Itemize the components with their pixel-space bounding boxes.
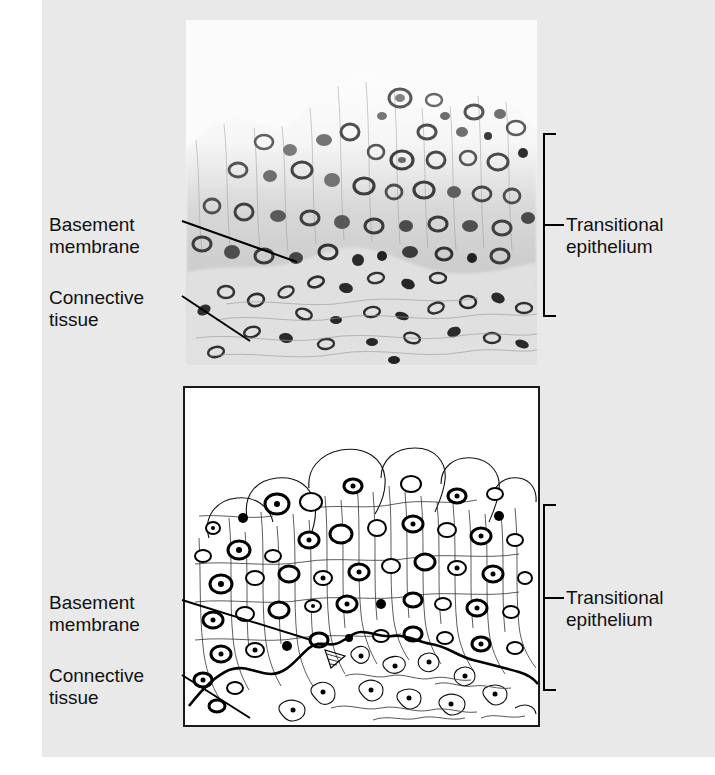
label-basement-membrane-top: Basement membrane [49, 214, 140, 258]
label-connective-tissue-top: Connective tissue [49, 287, 144, 331]
diagram-panel [183, 386, 540, 727]
figure-transitional-epithelium: Basement membrane Connective tissue Tran… [0, 0, 715, 775]
micrograph-panel [186, 20, 537, 365]
label-transitional-epithelium-bottom: Transitional epithelium [566, 587, 664, 631]
label-connective-tissue-bottom: Connective tissue [49, 665, 144, 709]
label-basement-membrane-bottom: Basement membrane [49, 592, 140, 636]
label-transitional-epithelium-top: Transitional epithelium [566, 214, 664, 258]
diagram-image [185, 388, 538, 725]
micrograph-image [186, 20, 537, 365]
